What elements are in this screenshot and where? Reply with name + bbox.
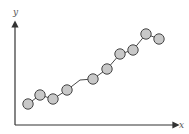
y-axis-label: y <box>12 7 19 17</box>
data-point-marker <box>23 99 33 109</box>
line-chart: y x <box>0 0 189 134</box>
data-point-marker <box>62 85 72 95</box>
data-point-marker <box>128 45 138 55</box>
data-point-marker <box>154 34 164 44</box>
x-axis-label: x <box>179 120 184 130</box>
data-point-marker <box>115 49 125 59</box>
data-point-marker <box>141 29 151 39</box>
data-point-marker <box>35 90 45 100</box>
data-markers <box>23 29 164 109</box>
data-point-marker <box>102 64 112 74</box>
data-point-marker <box>88 74 98 84</box>
series-line <box>28 34 159 104</box>
data-point-marker <box>48 94 58 104</box>
